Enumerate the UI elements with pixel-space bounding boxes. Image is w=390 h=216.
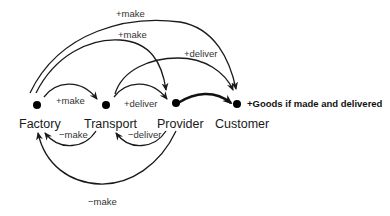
- edge-label-factory-transport-make: +make: [56, 95, 85, 106]
- node-label-factory: Factory: [19, 117, 61, 131]
- edge-transport-customer-deliver: [115, 58, 233, 94]
- node-label-transport: Transport: [84, 117, 138, 131]
- edge-provider-customer: [178, 94, 231, 103]
- edge-label-transport-provider-deliver: +deliver: [124, 98, 158, 109]
- causal-diagram: +make +make +deliver +make +deliver −mak…: [0, 0, 390, 216]
- node-customer: [233, 100, 241, 108]
- node-label-provider: Provider: [157, 117, 204, 131]
- node-provider: [172, 99, 180, 107]
- goal-label: +Goods if made and delivered: [247, 98, 383, 109]
- edge-label-factory-customer-make: +make: [116, 8, 145, 19]
- edge-transport-provider-deliver: [114, 84, 167, 99]
- edge-label-factory-provider-make: +make: [118, 29, 147, 40]
- node-factory: [33, 101, 41, 109]
- node-label-customer: Customer: [215, 117, 269, 131]
- node-transport: [102, 101, 110, 109]
- edge-label-transport-customer-deliver: +deliver: [184, 48, 218, 59]
- edge-label-provider-factory-make: −make: [88, 196, 117, 207]
